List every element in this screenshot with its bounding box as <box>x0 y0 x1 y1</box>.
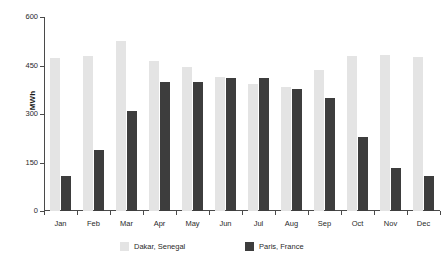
plot-area <box>44 17 440 211</box>
x-axis-tick-label: Aug <box>277 219 307 228</box>
x-axis-tick-label: Jun <box>211 219 241 228</box>
bar <box>347 56 357 211</box>
x-axis-tick-label: Dec <box>409 219 439 228</box>
x-axis-tick <box>110 211 111 215</box>
legend-label: Dakar, Senegal <box>134 242 185 251</box>
x-axis-tick <box>242 211 243 215</box>
bar <box>358 137 368 211</box>
y-axis-tick <box>40 17 44 18</box>
x-axis-tick <box>143 211 144 215</box>
bar <box>226 78 236 211</box>
bar <box>61 176 71 211</box>
bar <box>292 89 302 211</box>
bar <box>127 111 137 211</box>
bar <box>259 78 269 211</box>
x-axis-tick <box>275 211 276 215</box>
bar <box>83 56 93 211</box>
x-axis-tick <box>308 211 309 215</box>
x-axis-tick <box>407 211 408 215</box>
bar <box>116 41 126 211</box>
x-axis-tick <box>341 211 342 215</box>
x-axis-tick <box>374 211 375 215</box>
y-axis-tick-label: 450 <box>10 61 38 70</box>
legend-swatch-icon <box>245 242 254 251</box>
x-axis-tick <box>77 211 78 215</box>
bar <box>149 61 159 211</box>
y-axis-tick <box>40 114 44 115</box>
x-axis-tick-label: Sep <box>310 219 340 228</box>
chart-legend: Dakar, SenegalParis, France <box>0 241 445 255</box>
x-axis-tick <box>440 211 441 215</box>
y-axis-tick <box>40 66 44 67</box>
y-axis-tick-label: 300 <box>10 109 38 118</box>
x-axis-tick <box>209 211 210 215</box>
y-axis-tick-label: 0 <box>10 206 38 215</box>
x-axis-tick-label: Jan <box>46 219 76 228</box>
bar <box>325 98 335 211</box>
bar <box>391 168 401 211</box>
legend-label: Paris, France <box>259 242 304 251</box>
legend-swatch-icon <box>120 242 129 251</box>
bar <box>50 58 60 211</box>
y-axis-line <box>44 17 45 211</box>
x-axis-tick-label: Apr <box>145 219 175 228</box>
bar <box>160 82 170 211</box>
x-axis-tick-label: Feb <box>79 219 109 228</box>
bar <box>215 77 225 211</box>
y-axis-tick-label: 600 <box>10 12 38 21</box>
y-axis-tick-label: 150 <box>10 158 38 167</box>
bar <box>314 70 324 211</box>
x-axis-tick-label: May <box>178 219 208 228</box>
bar <box>380 55 390 211</box>
x-axis-tick-label: Nov <box>376 219 406 228</box>
y-axis-tick <box>40 163 44 164</box>
bar <box>182 67 192 211</box>
x-axis-tick <box>44 211 45 215</box>
bar <box>424 176 434 211</box>
bar <box>281 87 291 211</box>
x-axis-tick-label: Mar <box>112 219 142 228</box>
bar <box>413 57 423 211</box>
bar-chart: MWh 0150300450600 JanFebMarAprMayJunJulA… <box>0 0 445 260</box>
x-axis-tick-label: Oct <box>343 219 373 228</box>
bar <box>94 150 104 211</box>
y-axis-title: MWh <box>28 71 37 131</box>
x-axis-tick-label: Jul <box>244 219 274 228</box>
bar <box>193 82 203 211</box>
x-axis-tick <box>176 211 177 215</box>
bar <box>248 84 258 211</box>
